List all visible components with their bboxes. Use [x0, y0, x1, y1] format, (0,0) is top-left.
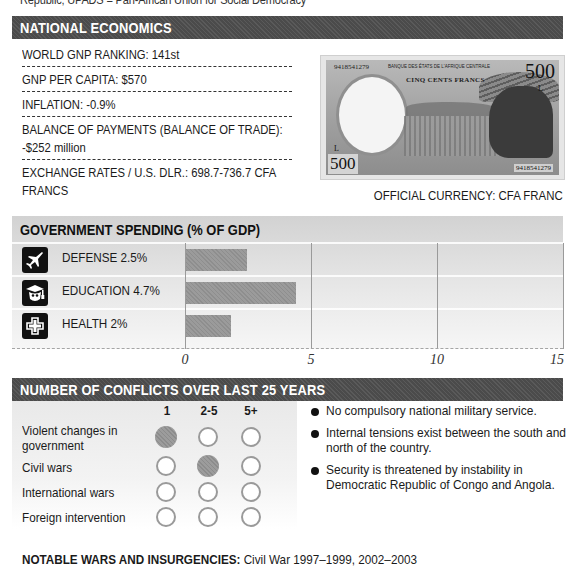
econ-item-balance-label: BALANCE OF PAYMENTS (BALANCE OF TRADE):: [22, 121, 292, 139]
tick-label-5: 5: [308, 352, 315, 368]
dot-empty: [156, 456, 176, 476]
chart-baseline: [12, 348, 563, 349]
economics-list: WORLD GNP RANKING: 141st GNP PER CAPITA:…: [22, 46, 292, 206]
spending-title: GOVERNMENT SPENDING (% OF GDP): [20, 218, 299, 241]
bar-defense: [186, 249, 247, 271]
graduate-cap-icon: [22, 280, 48, 306]
conflicts-col-2-5: 2-5: [200, 403, 219, 418]
banknote-watermark: [336, 74, 408, 156]
banknote-face: 9418541279 BANQUE DES ÉTATS DE L'AFRIQUE…: [326, 60, 559, 175]
note-item: Internal tensions exist between the sout…: [310, 425, 570, 456]
dot-filled: [155, 426, 177, 448]
banknote-image: 9418541279 BANQUE DES ÉTATS DE L'AFRIQUE…: [320, 55, 565, 180]
banknote-letter-right: L: [538, 84, 543, 93]
banknote-serial-bottom: 9418541279: [514, 164, 553, 172]
section-title: NATIONAL ECONOMICS: [20, 16, 172, 39]
econ-item-exchange-value: FRANCS: [22, 182, 292, 202]
spending-label-education: EDUCATION 4.7%: [62, 283, 171, 298]
cropped-previous-text: Republic; UPADS = Pan-African Union for …: [20, 0, 306, 7]
dot-empty: [198, 482, 218, 502]
econ-item-inflation: INFLATION: -0.9%: [22, 96, 292, 117]
medical-cross-icon: [22, 313, 48, 339]
bar-education: [186, 282, 296, 304]
national-economics-header: NATIONAL ECONOMICS: [12, 16, 563, 39]
bar-health: [186, 315, 231, 337]
dot-empty: [241, 456, 261, 476]
econ-item-balance-value: -$252 million: [22, 139, 292, 160]
notable-label: NOTABLE WARS AND INSURGENCIES:: [22, 552, 240, 567]
note-item: Security is threatened by instability in…: [310, 462, 570, 493]
dot-filled: [197, 455, 219, 477]
conflicts-row-label-foreign-intervention: Foreign intervention: [22, 510, 142, 525]
conflicts-header: NUMBER OF CONFLICTS OVER LAST 25 YEARS: [12, 378, 563, 401]
dot-empty: [198, 427, 218, 447]
section-title: NUMBER OF CONFLICTS OVER LAST 25 YEARS: [20, 378, 325, 401]
banknote-denomination-top: 500: [525, 60, 555, 83]
spending-row-education: EDUCATION 4.7%: [12, 277, 563, 308]
banknote-denomination-bottom: 500: [328, 154, 358, 174]
fighter-jet-icon: [22, 247, 48, 273]
banknote-portrait: [489, 86, 553, 158]
tick-label-0: 0: [182, 352, 189, 368]
currency-caption: OFFICIAL CURRENCY: CFA FRANC: [348, 188, 563, 203]
conflicts-col-1: 1: [163, 403, 170, 418]
dot-empty: [198, 507, 218, 527]
spending-row-health: HEALTH 2%: [12, 310, 563, 341]
notable-wars: NOTABLE WARS AND INSURGENCIES: Civil War…: [22, 552, 461, 567]
banknote-bank-name: BANQUE DES ÉTATS DE L'AFRIQUE CENTRALE: [388, 64, 490, 69]
banknote-letter-left: L: [334, 144, 339, 153]
dot-empty: [156, 482, 176, 502]
conflicts-row-label-civil-wars: Civil wars: [22, 460, 142, 475]
banknote-title: CINQ CENTS FRANCS: [406, 76, 485, 84]
banknote-hills: [406, 102, 496, 116]
dot-empty: [156, 507, 176, 527]
spending-row-defense: DEFENSE 2.5%: [12, 244, 563, 275]
spending-label-health: HEALTH 2%: [62, 316, 135, 331]
dot-empty: [241, 507, 261, 527]
conflicts-notes-list: No compulsory national military service.…: [310, 403, 570, 499]
econ-item-exchange-label: EXCHANGE RATES / U.S. DLR.: 698.7-736.7 …: [22, 164, 292, 182]
dot-empty: [241, 482, 261, 502]
note-item: No compulsory national military service.: [310, 403, 570, 419]
government-spending-chart: GOVERNMENT SPENDING (% OF GDP) DEFENSE 2…: [12, 216, 563, 349]
tick-label-10: 10: [430, 352, 444, 368]
dot-empty: [241, 427, 261, 447]
conflicts-col-5-plus: 5+: [244, 403, 259, 418]
spending-label-defense: DEFENSE 2.5%: [62, 250, 157, 265]
banknote-serial-top: 9418541279: [334, 63, 369, 71]
gridline-15: [563, 243, 564, 349]
conflicts-row-label-violent-changes: Violent changes in government: [22, 423, 142, 453]
conflicts-row-label-international-wars: International wars: [22, 485, 142, 500]
econ-item-gnp-ranking: WORLD GNP RANKING: 141st: [22, 46, 292, 67]
econ-item-gnp-per-capita: GNP PER CAPITA: $570: [22, 71, 292, 92]
tick-label-15: 15: [550, 352, 564, 368]
notable-value: Civil War 1997–1999, 2002–2003: [244, 552, 417, 567]
